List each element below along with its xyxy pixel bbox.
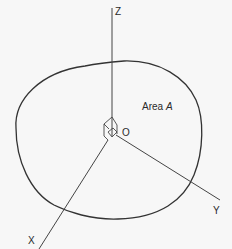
diagram-canvas [0, 0, 232, 249]
x-axis-label: X [28, 236, 35, 246]
area-boundary [16, 61, 202, 219]
area-label: Area A [142, 102, 173, 112]
y-axis [116, 135, 220, 200]
y-axis-label: Y [213, 206, 220, 216]
area-label-symbol: A [166, 101, 173, 112]
z-axis-label: Z [115, 7, 121, 17]
origin-label: O [122, 128, 130, 138]
coordinate-diagram: Z X Y O Area A [0, 0, 232, 249]
x-axis [39, 140, 108, 249]
area-label-prefix: Area [142, 101, 166, 112]
right-angle-marker [104, 117, 117, 140]
